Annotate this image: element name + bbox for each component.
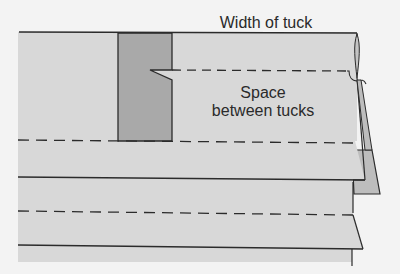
tuck-fold-region	[118, 33, 172, 141]
fabric-pleat-2	[18, 213, 363, 249]
tuck-diagram-svg	[0, 0, 400, 274]
width-of-tuck-label: Width of tuck	[206, 14, 326, 32]
space-between-tucks-label: Space between tucks	[198, 84, 328, 120]
tuck-diagram: Width of tuck Space between tucks	[0, 0, 400, 274]
fabric-pleat-1	[18, 141, 365, 180]
fabric-mid-panel	[18, 180, 353, 213]
space-label-line-1: Space	[198, 84, 328, 102]
fabric-bottom-panel	[18, 249, 352, 262]
space-label-line-2: between tucks	[198, 102, 328, 120]
